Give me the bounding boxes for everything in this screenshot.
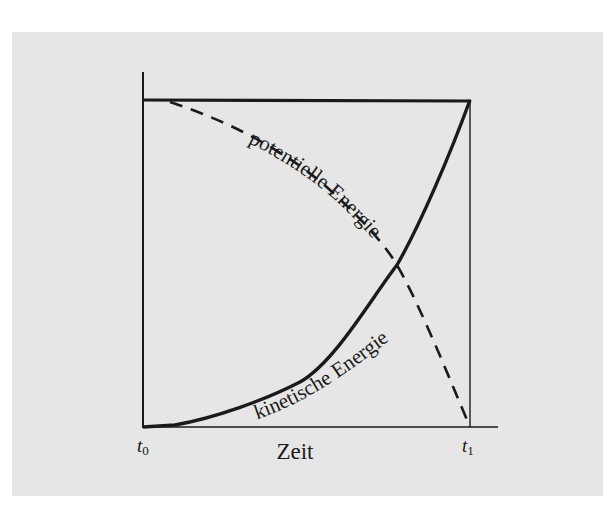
t0-tick-label: t0 [137,435,149,458]
x-axis-label: Zeit [276,439,314,464]
kinetic-energy-label: kinetische Energie [250,325,392,424]
t1-tick-label: t1 [462,435,474,458]
energy-diagram: potentielle Energie kinetische Energie t… [0,0,609,515]
total-energy-line [143,100,471,101]
potential-energy-label: potentielle Energie [246,126,387,243]
